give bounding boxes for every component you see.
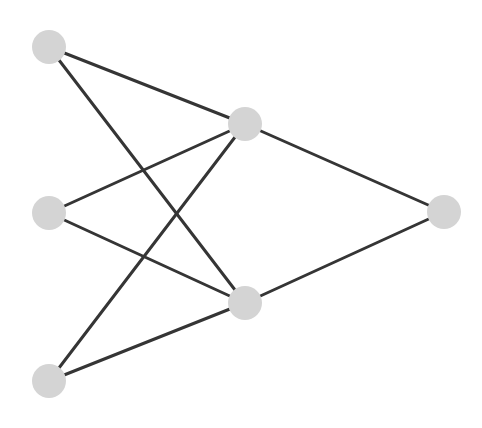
- node-h2: [228, 286, 262, 320]
- edge-in2-h1: [49, 124, 245, 213]
- node-in2: [32, 196, 66, 230]
- network-diagram: [0, 0, 482, 428]
- edge-h2-out1: [245, 212, 444, 303]
- node-group: [32, 30, 461, 398]
- edge-group: [49, 47, 444, 381]
- node-in1: [32, 30, 66, 64]
- edge-in2-h2: [49, 213, 245, 303]
- edge-h1-out1: [245, 124, 444, 212]
- node-in3: [32, 364, 66, 398]
- node-out1: [427, 195, 461, 229]
- node-h1: [228, 107, 262, 141]
